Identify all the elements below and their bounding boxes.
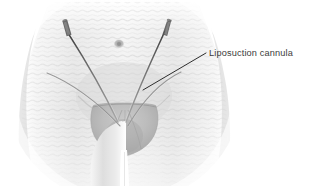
illustration-figure: Liposuction cannula — [0, 0, 318, 186]
navel — [114, 40, 124, 49]
illustration-canvas: Liposuction cannula — [0, 0, 318, 186]
annotation-label: Liposuction cannula — [209, 48, 294, 58]
anatomy-body — [14, 0, 236, 186]
